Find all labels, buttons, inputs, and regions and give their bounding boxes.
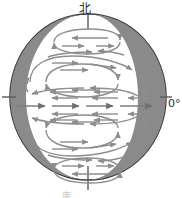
north-pole-label: 北	[79, 3, 91, 15]
figure-canvas: 北 0° 南	[0, 0, 182, 198]
prime-meridian-label: 0°	[168, 98, 181, 109]
circulation-diagram	[0, 0, 182, 198]
bottom-caption-label: 南	[62, 192, 71, 198]
